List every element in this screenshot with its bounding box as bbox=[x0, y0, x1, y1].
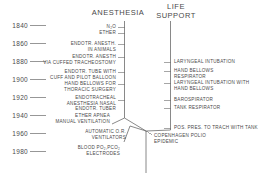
year-label-1920: 1920 bbox=[2, 94, 28, 101]
event-barospirator: BAROSPIRATOR bbox=[174, 97, 264, 103]
event-hand-bellows-respirator: HAND BELLOWS RESPIRATOR bbox=[174, 68, 264, 79]
column-header-anesthesia: ANESTHESIA bbox=[88, 9, 148, 18]
event-endotr-tube-cuff-pilot-balloon: ENDOTR. TUBE WITH CUFF AND PILOT BALLOON bbox=[34, 69, 116, 80]
year-label-1860: 1860 bbox=[2, 40, 28, 47]
event-n2o: N₂O bbox=[48, 24, 116, 30]
event-tank-respirator: TANK RESPIRATOR bbox=[174, 105, 264, 111]
year-label-1940: 1940 bbox=[2, 112, 28, 119]
connector-copenhagen bbox=[146, 131, 152, 135]
event-ether: ETHER bbox=[48, 30, 116, 36]
event-endotr-anesth-cuffed-tracheostomy: ENDOTR. ANESTH VIA CUFFED TRACHEOSTOMY bbox=[30, 54, 116, 65]
event-endotracheal-anesthesia-nasal: ENDOTRACHEAL ANESTHESIA NASAL ENDOTR. TU… bbox=[42, 95, 116, 112]
column-header-life-support: LIFE SUPPORT bbox=[148, 3, 204, 20]
event-copenhagen-polio-epidemic: COPENHAGEN POLIO EPIDEMIC bbox=[154, 133, 244, 144]
year-label-1900: 1900 bbox=[2, 76, 28, 83]
year-label-1840: 1840 bbox=[2, 22, 28, 29]
year-label-1980: 1980 bbox=[2, 148, 28, 155]
event-endotr-anesth-animals: ENDOTR. ANESTH. IN ANIMALS bbox=[40, 41, 116, 52]
timeline-diagram-page: ANESTHESIA LIFE SUPPORT 1840 1860 1880 1… bbox=[0, 0, 266, 173]
event-pos-pres-trach-tank: POS. PRES. TO TRACH WITH TANK bbox=[174, 125, 266, 131]
branch-ether-apnea bbox=[112, 118, 125, 124]
event-laryngeal-intubation-hand-bellows: LARYNGEAL INTUBATION WITH HAND BELLOWS bbox=[174, 80, 266, 91]
year-label-1880: 1880 bbox=[2, 58, 28, 65]
year-label-1960: 1960 bbox=[2, 130, 28, 137]
event-laryngeal-intubation: LARYNGEAL INTUBATION bbox=[174, 59, 264, 65]
event-automatic-or-ventilators: AUTOMATIC O.R. VENTILATORS bbox=[48, 129, 126, 140]
anesthesia-branch-to-junction bbox=[125, 118, 147, 131]
event-hand-bellows-thoracic-surgery: HAND BELLOWS FOR THORACIC SURGERY bbox=[38, 81, 116, 92]
event-blood-po2-pco2-electrodes: BLOOD PO₂,PCO₂ ELECTRODES bbox=[50, 145, 120, 156]
branch-automatic-ventilators bbox=[130, 126, 146, 131]
event-ether-apnea-manual-ventilation: ETHER APNEA MANUAL VENTILATION bbox=[40, 113, 110, 124]
life-support-branch-to-junction bbox=[146, 130, 171, 131]
